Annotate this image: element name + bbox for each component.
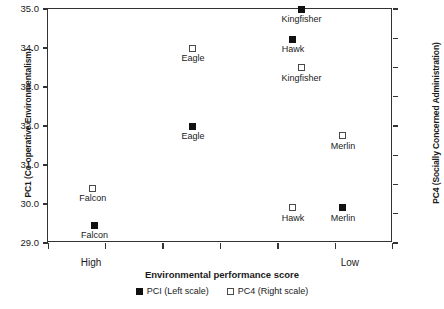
data-point-hawk-pc4	[289, 204, 296, 211]
right-axis-title: PC4 (Socially Concerned Administration)	[431, 23, 441, 223]
bottom-tick	[105, 243, 106, 249]
left-tick-label: 33.0	[0, 82, 39, 92]
left-tick-label: 31.0	[0, 160, 39, 170]
filled-square-icon	[136, 288, 143, 295]
data-point-label: Merlin	[303, 141, 383, 151]
data-point-label: Kingfisher	[262, 73, 342, 83]
data-point-label: Hawk	[253, 44, 333, 54]
data-point-merlin-pc1	[339, 204, 346, 211]
right-tick	[393, 213, 398, 214]
data-point-label: Hawk	[253, 213, 333, 223]
left-tick	[43, 86, 48, 87]
bottom-tick	[277, 243, 278, 249]
data-point-kingfisher-pc4	[298, 64, 305, 71]
right-tick	[393, 67, 398, 68]
bottom-tick	[162, 243, 163, 249]
left-tick	[43, 203, 48, 204]
open-square-icon	[227, 288, 234, 295]
legend-label-pc4: PC4 (Right scale)	[238, 286, 309, 296]
data-point-falcon-pc1	[91, 222, 98, 229]
left-tick-label: 30.0	[0, 199, 39, 209]
bottom-tick	[392, 243, 393, 249]
left-tick	[43, 125, 48, 126]
right-tick	[393, 184, 398, 185]
legend-label-pc1: PCI (Left scale)	[147, 286, 209, 296]
bottom-tick	[335, 243, 336, 249]
left-tick	[43, 47, 48, 48]
legend-item-pc1: PCI (Left scale)	[136, 286, 209, 296]
bottom-tick	[48, 243, 49, 249]
x-label-high: High	[61, 257, 121, 268]
left-tick-label: 34.0	[0, 43, 39, 53]
left-tick-label: 29.0	[0, 238, 39, 248]
right-tick	[393, 38, 398, 39]
left-tick-label: 32.0	[0, 121, 39, 131]
data-point-merlin-pc4	[339, 132, 346, 139]
right-tick	[393, 96, 398, 97]
data-point-label: Kingfisher	[262, 14, 342, 24]
data-point-label: Eagle	[153, 131, 233, 141]
data-point-eagle-pc1	[189, 123, 196, 130]
right-tick	[393, 155, 398, 156]
data-point-falcon-pc4	[89, 185, 96, 192]
bottom-tick	[220, 243, 221, 249]
chart-legend: PCI (Left scale) PC4 (Right scale)	[0, 286, 444, 296]
legend-item-pc4: PC4 (Right scale)	[227, 286, 309, 296]
left-tick	[43, 8, 48, 9]
data-point-hawk-pc1	[289, 36, 296, 43]
right-tick	[393, 125, 398, 126]
x-axis-title: Environmental performance score	[0, 269, 444, 280]
data-point-eagle-pc4	[189, 45, 196, 52]
right-tick	[393, 242, 398, 243]
x-label-low: Low	[320, 257, 380, 268]
left-tick	[43, 164, 48, 165]
plot-area: 35.034.033.032.031.030.029.032.521.510.5…	[47, 8, 392, 242]
left-tick-label: 35.0	[0, 4, 39, 14]
scatter-chart: PC1 (Co-operative Environmentalism) PC4 …	[0, 0, 444, 309]
data-point-label: Falcon	[55, 230, 135, 240]
data-point-label: Falcon	[53, 193, 133, 203]
data-point-kingfisher-pc1	[298, 6, 305, 13]
data-point-label: Eagle	[153, 53, 233, 63]
right-tick	[393, 8, 398, 9]
